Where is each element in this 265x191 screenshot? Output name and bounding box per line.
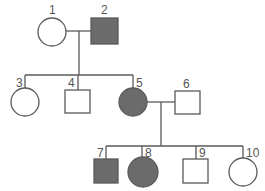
label-10: 10 — [246, 146, 260, 160]
individual-8-female-affected — [128, 157, 158, 187]
individuals — [11, 18, 257, 187]
individual-5-female-affected — [119, 88, 147, 116]
individual-10-female-unaffected — [229, 158, 257, 186]
individual-1-female-unaffected — [38, 18, 66, 46]
individual-9-male-unaffected — [183, 159, 208, 183]
label-1: 1 — [49, 3, 56, 17]
individual-4-male-unaffected — [65, 90, 90, 113]
pedigree-chart: 1 2 3 4 5 6 7 8 9 10 — [0, 0, 265, 191]
label-6: 6 — [183, 77, 190, 91]
individual-3-female-unaffected — [11, 88, 39, 116]
individual-6-male-unaffected — [175, 91, 200, 114]
label-5: 5 — [136, 76, 143, 90]
individual-2-male-affected — [91, 18, 118, 44]
label-7: 7 — [97, 146, 104, 160]
label-9: 9 — [199, 146, 206, 160]
label-4: 4 — [68, 76, 75, 90]
label-2: 2 — [101, 3, 108, 17]
label-3: 3 — [16, 76, 23, 90]
individual-7-male-affected — [94, 159, 118, 183]
label-8: 8 — [145, 146, 152, 160]
